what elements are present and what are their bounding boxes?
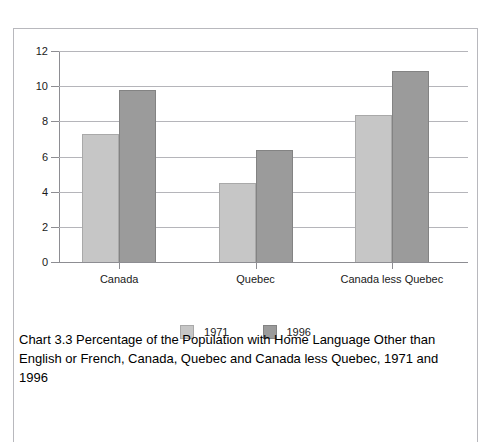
bar-canada-1996 (119, 90, 156, 262)
bar-canada-less-quebec-1996 (392, 71, 429, 262)
y-axis-tick (51, 86, 59, 87)
gridline (59, 262, 468, 263)
y-axis-tick (51, 157, 59, 158)
bar-canada-less-quebec-1971 (355, 115, 392, 262)
y-axis-label: 2 (42, 221, 48, 232)
y-axis-label: 6 (42, 151, 48, 162)
chart-caption: Chart 3.3 Percentage of the Population w… (19, 330, 447, 387)
x-axis-label-canada: Canada (100, 273, 139, 286)
x-axis-tick (119, 262, 120, 269)
x-axis-label-quebec: Quebec (236, 273, 275, 286)
y-axis-label: 12 (36, 46, 48, 57)
bar-canada-1971 (82, 134, 119, 262)
y-axis-label: 10 (36, 81, 48, 92)
y-axis-label: 8 (42, 116, 48, 127)
y-axis-label: 4 (42, 186, 48, 197)
page-header-text (6, 0, 206, 7)
x-axis-label-canada-less-quebec: Canada less Quebec (340, 273, 443, 286)
chart-plot-wrapper: 024681012CanadaQuebecCanada less Quebec … (13, 28, 478, 288)
y-axis-label: 0 (42, 257, 48, 268)
plot-area: 024681012CanadaQuebecCanada less Quebec (59, 51, 468, 262)
y-axis-tick (51, 262, 59, 263)
y-axis-tick (51, 227, 59, 228)
y-axis-tick (51, 121, 59, 122)
y-axis-tick (51, 51, 59, 52)
bar-quebec-1996 (256, 150, 293, 262)
x-axis-tick (256, 262, 257, 269)
x-axis-tick (392, 262, 393, 269)
gridline (59, 51, 468, 52)
y-axis-tick (51, 192, 59, 193)
bar-quebec-1971 (219, 183, 256, 262)
